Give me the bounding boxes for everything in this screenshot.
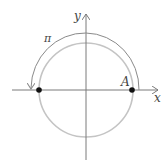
point-a xyxy=(129,87,135,93)
point-left xyxy=(36,87,42,93)
y-axis-label: y xyxy=(73,9,81,23)
x-axis-label: x xyxy=(154,91,161,105)
arc-label-pi: π xyxy=(43,32,52,45)
point-a-label: A xyxy=(120,75,130,89)
unit-circle-diagram: y x π A xyxy=(0,0,168,166)
